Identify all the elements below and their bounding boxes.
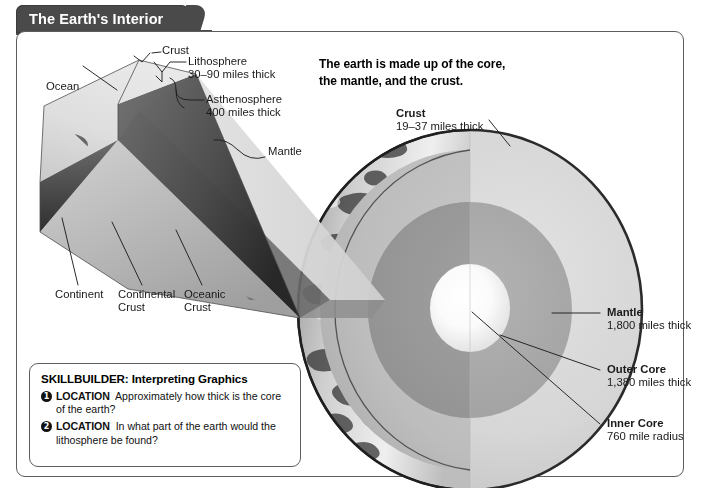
- label-crust-wedge: Crust: [162, 44, 189, 57]
- label-oceanic-crust-sub: Crust: [184, 301, 225, 314]
- label-outer-core-sub: 1,380 miles thick: [607, 376, 691, 389]
- diagram-canvas: The Earth's Interior: [0, 0, 703, 488]
- question-text-wrapper: LOCATION Approximately how thick is the …: [56, 390, 289, 416]
- label-asthenosphere-title: Asthenosphere: [206, 93, 282, 105]
- label-continental-crust: Continental Crust: [118, 288, 175, 314]
- label-lithosphere-sub: 30–90 miles thick: [188, 68, 275, 81]
- skillbuilder-question: 1 LOCATION Approximately how thick is th…: [41, 390, 289, 416]
- label-mantle-wedge: Mantle: [268, 145, 302, 158]
- label-asthenosphere: Asthenosphere 400 miles thick: [206, 93, 282, 119]
- skillbuilder-heading: SKILLBUILDER: Interpreting Graphics: [41, 372, 289, 385]
- label-oceanic-crust: Oceanic Crust: [184, 288, 225, 314]
- label-continent: Continent: [55, 288, 103, 301]
- label-mantle-globe-sub: 1,800 miles thick: [607, 319, 691, 332]
- question-text-wrapper: LOCATION In what part of the earth would…: [56, 420, 289, 446]
- label-inner-core: Inner Core 760 mile radius: [607, 417, 684, 443]
- label-crust-globe-sub: 19–37 miles thick: [396, 120, 483, 133]
- label-inner-core-sub: 760 mile radius: [607, 430, 684, 443]
- label-lithosphere-title: Lithosphere: [188, 55, 247, 67]
- label-continental-crust-title: Continental: [118, 288, 175, 300]
- label-oceanic-crust-title: Oceanic: [184, 288, 225, 300]
- question-number-badge: 2: [41, 421, 52, 432]
- label-mantle-globe: Mantle 1,800 miles thick: [607, 306, 691, 332]
- label-outer-core: Outer Core 1,380 miles thick: [607, 363, 691, 389]
- label-crust-globe: Crust 19–37 miles thick: [396, 107, 483, 133]
- question-tag: LOCATION: [56, 420, 110, 432]
- label-crust-globe-title: Crust: [396, 107, 426, 119]
- page-title: The Earth's Interior: [16, 11, 163, 27]
- question-number-badge: 1: [41, 391, 52, 402]
- skillbuilder-question: 2 LOCATION In what part of the earth wou…: [41, 420, 289, 446]
- label-lithosphere: Lithosphere 30–90 miles thick: [188, 55, 275, 81]
- question-tag: LOCATION: [56, 390, 110, 402]
- skillbuilder-box: SKILLBUILDER: Interpreting Graphics 1 LO…: [29, 363, 301, 467]
- intro-text: The earth is made up of the core, the ma…: [319, 56, 505, 89]
- label-continental-crust-sub: Crust: [118, 301, 175, 314]
- label-ocean: Ocean: [46, 80, 79, 93]
- label-outer-core-title: Outer Core: [607, 363, 666, 375]
- label-mantle-globe-title: Mantle: [607, 306, 643, 318]
- label-inner-core-title: Inner Core: [607, 417, 664, 429]
- label-asthenosphere-sub: 400 miles thick: [206, 106, 282, 119]
